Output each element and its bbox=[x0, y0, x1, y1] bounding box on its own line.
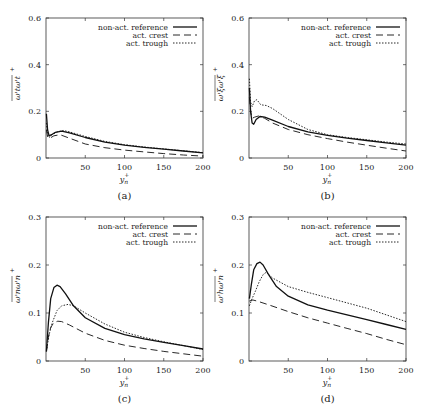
y-tick-label: 0.2 bbox=[28, 261, 41, 270]
x-tick-label: 200 bbox=[398, 366, 413, 375]
svg-text:+: + bbox=[8, 67, 15, 72]
legend: non-act. referenceact. crestact. trough bbox=[98, 23, 197, 48]
svg-text:ω'hω'n: ω'hω'n bbox=[216, 275, 225, 303]
series-line-dashed bbox=[46, 130, 203, 156]
series-line-solid bbox=[46, 114, 203, 153]
series-line-dotted bbox=[249, 79, 406, 144]
y-tick-label: 0.2 bbox=[231, 261, 244, 270]
y-tick-label: 0.2 bbox=[231, 107, 244, 116]
y-tick-label: 0 bbox=[36, 154, 41, 163]
svg-text:+: + bbox=[211, 67, 218, 72]
series-line-solid bbox=[249, 262, 406, 329]
y-axis-label: ω'hω'n+ bbox=[211, 268, 225, 303]
plot-frame bbox=[249, 217, 406, 361]
series-line-solid bbox=[249, 88, 406, 145]
x-tick-label: 50 bbox=[283, 366, 293, 375]
x-tick-label: 150 bbox=[156, 163, 171, 172]
legend: non-act. referenceact. crestact. trough bbox=[98, 222, 197, 247]
series-line-dotted bbox=[249, 272, 406, 321]
plot-frame bbox=[46, 217, 203, 361]
legend-label: act. trough bbox=[126, 39, 168, 48]
y-axis-label: ω'tω't+ bbox=[8, 67, 22, 101]
subfigure-caption: (c) bbox=[118, 393, 132, 404]
y-tick-label: 0 bbox=[36, 357, 41, 366]
x-tick-label: 200 bbox=[398, 163, 413, 172]
y-axis-label: ω'ξω'ξ+ bbox=[211, 67, 225, 101]
chart-panel-d: 00.10.20.350100150200yn+ω'hω'n+non-act. … bbox=[203, 205, 423, 416]
x-axis-label: yn+ bbox=[119, 374, 129, 388]
y-tick-label: 0.3 bbox=[231, 213, 244, 222]
legend-label: act. trough bbox=[329, 238, 371, 247]
x-axis-label: yn+ bbox=[322, 171, 332, 185]
x-tick-label: 150 bbox=[359, 163, 374, 172]
y-axis-label: ω'nω'n+ bbox=[8, 268, 22, 303]
svg-text:ω'ξω'ξ: ω'ξω'ξ bbox=[216, 74, 225, 101]
x-tick-label: 150 bbox=[359, 366, 374, 375]
x-tick-label: 150 bbox=[156, 366, 171, 375]
chart-svg-d: 00.10.20.350100150200yn+ω'hω'n+non-act. … bbox=[203, 205, 423, 416]
y-tick-label: 0.4 bbox=[231, 61, 244, 70]
y-tick-label: 0.1 bbox=[231, 309, 244, 318]
series-line-solid bbox=[46, 285, 203, 351]
chart-panel-a: 00.20.40.650100150200yn+ω'tω't+non-act. … bbox=[0, 0, 212, 205]
y-tick-label: 0.1 bbox=[28, 309, 41, 318]
y-tick-label: 0.6 bbox=[231, 14, 244, 23]
y-tick-label: 0 bbox=[239, 154, 244, 163]
chart-svg-a: 00.20.40.650100150200yn+ω'tω't+non-act. … bbox=[0, 0, 212, 205]
chart-panel-c: 00.10.20.350100150200yn+ω'nω'n+non-act. … bbox=[0, 205, 212, 416]
y-tick-label: 0.2 bbox=[28, 107, 41, 116]
x-axis-label: yn+ bbox=[322, 374, 332, 388]
chart-svg-c: 00.10.20.350100150200yn+ω'nω'n+non-act. … bbox=[0, 205, 212, 416]
x-tick-label: 50 bbox=[80, 366, 90, 375]
x-axis-label: yn+ bbox=[119, 171, 129, 185]
svg-text:ω'tω't: ω'tω't bbox=[13, 75, 22, 100]
y-tick-label: 0 bbox=[239, 357, 244, 366]
series-line-dashed bbox=[46, 321, 203, 356]
y-tick-label: 0.4 bbox=[28, 61, 41, 70]
legend: non-act. referenceact. crestact. trough bbox=[301, 222, 400, 247]
svg-text:+: + bbox=[8, 268, 15, 273]
chart-svg-b: 00.20.40.650100150200yn+ω'ξω'ξ+non-act. … bbox=[203, 0, 423, 205]
svg-text:ω'nω'n: ω'nω'n bbox=[13, 275, 22, 303]
y-tick-label: 0.6 bbox=[28, 14, 41, 23]
y-tick-label: 0.3 bbox=[28, 213, 41, 222]
subfigure-caption: (a) bbox=[118, 190, 132, 201]
chart-panel-b: 00.20.40.650100150200yn+ω'ξω'ξ+non-act. … bbox=[203, 0, 423, 205]
series-line-dotted bbox=[46, 123, 203, 153]
legend-label: act. trough bbox=[329, 39, 371, 48]
svg-text:+: + bbox=[211, 268, 218, 273]
series-line-dashed bbox=[249, 300, 406, 345]
subfigure-caption: (d) bbox=[320, 393, 334, 404]
legend: non-act. referenceact. crestact. trough bbox=[301, 23, 400, 48]
plot-frame bbox=[46, 18, 203, 158]
plot-frame bbox=[249, 18, 406, 158]
subfigure-caption: (b) bbox=[320, 190, 334, 201]
legend-label: act. trough bbox=[126, 238, 168, 247]
x-tick-label: 50 bbox=[80, 163, 90, 172]
x-tick-label: 50 bbox=[283, 163, 293, 172]
